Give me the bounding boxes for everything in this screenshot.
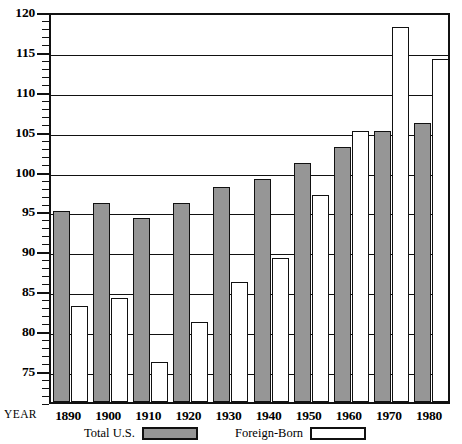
legend-swatch-total-us <box>142 427 198 440</box>
bars-layer <box>51 15 448 402</box>
y-axis-major-tick <box>37 133 49 135</box>
y-axis-minor-tick <box>42 205 49 206</box>
y-axis-minor-tick <box>42 21 49 22</box>
y-axis-minor-tick <box>42 149 49 150</box>
bar-1920-foreign-born <box>191 322 208 402</box>
x-axis-tick-label-1910: 1910 <box>135 408 161 424</box>
bar-1970-foreign-born <box>392 27 409 402</box>
y-axis-minor-tick <box>42 77 49 78</box>
y-axis-tick-label: 100 <box>15 165 35 181</box>
bar-1980-foreign-born <box>432 59 449 402</box>
y-axis-tick-label: 90 <box>22 244 35 260</box>
legend-label-foreign-born: Foreign-Born <box>235 426 303 441</box>
x-axis-tick-label-1930: 1930 <box>216 408 242 424</box>
y-axis-major-tick <box>37 93 49 95</box>
y-axis-minor-tick <box>42 316 49 317</box>
y-axis-tick-label: 95 <box>22 204 35 220</box>
y-axis-minor-tick <box>42 404 49 405</box>
bar-1920-total-us <box>173 203 190 402</box>
y-axis-major-tick <box>37 173 49 175</box>
y-axis-minor-tick <box>42 165 49 166</box>
y-axis-tick-label: 75 <box>22 364 35 380</box>
y-axis-minor-tick <box>42 236 49 237</box>
bar-1900-foreign-born <box>111 298 128 402</box>
bar-1900-total-us <box>93 203 110 402</box>
bar-chart: 7580859095100105110115120 YEAR 189019001… <box>0 0 462 444</box>
bar-1890-foreign-born <box>71 306 88 402</box>
legend-item-foreign-born: Foreign-Born <box>235 426 366 441</box>
y-axis-minor-tick <box>42 284 49 285</box>
y-axis-minor-tick <box>42 324 49 325</box>
y-axis-minor-tick <box>42 228 49 229</box>
bar-1960-foreign-born <box>352 131 369 402</box>
legend-label-total-us: Total U.S. <box>84 426 135 441</box>
y-axis-tick-label: 110 <box>16 85 35 101</box>
y-axis-major-tick <box>37 212 49 214</box>
x-axis-tick-label-1960: 1960 <box>336 408 362 424</box>
x-axis-tick-label-1900: 1900 <box>95 408 121 424</box>
y-axis-minor-tick <box>42 29 49 30</box>
y-axis-major-tick <box>37 53 49 55</box>
y-axis-major-tick <box>37 252 49 254</box>
legend-item-total-us: Total U.S. <box>84 426 198 441</box>
x-axis-tick-label-1950: 1950 <box>296 408 322 424</box>
y-axis-minor-tick <box>42 101 49 102</box>
y-axis-minor-tick <box>42 268 49 269</box>
y-axis-minor-tick <box>42 189 49 190</box>
y-axis-tick-label: 105 <box>15 125 35 141</box>
y-axis-minor-tick <box>42 37 49 38</box>
y-axis-minor-tick <box>42 340 49 341</box>
plot-area <box>49 13 450 404</box>
y-axis-minor-tick <box>42 220 49 221</box>
y-axis-minor-tick <box>42 69 49 70</box>
y-axis-minor-tick <box>42 109 49 110</box>
y-axis-minor-tick <box>42 260 49 261</box>
y-axis-minor-tick <box>42 348 49 349</box>
y-axis-minor-tick <box>42 308 49 309</box>
y-axis-minor-tick <box>42 61 49 62</box>
y-axis-major-tick <box>37 13 49 15</box>
y-axis-tick-label: 85 <box>22 284 35 300</box>
x-axis-tick-label-1980: 1980 <box>416 408 442 424</box>
y-axis-tick-label: 115 <box>16 45 35 61</box>
x-axis-title: YEAR <box>4 408 37 420</box>
x-axis-tick-label-1940: 1940 <box>256 408 282 424</box>
y-axis-minor-tick <box>42 181 49 182</box>
bar-1960-total-us <box>334 147 351 402</box>
bar-1950-foreign-born <box>312 195 329 402</box>
bar-1940-foreign-born <box>272 258 289 402</box>
bar-1910-total-us <box>133 218 150 402</box>
y-axis-minor-tick <box>42 141 49 142</box>
y-axis-minor-tick <box>42 276 49 277</box>
y-axis-minor-tick <box>42 85 49 86</box>
bar-1940-total-us <box>254 179 271 402</box>
y-axis-minor-tick <box>42 244 49 245</box>
y-axis-major-tick <box>37 372 49 374</box>
y-axis-tick-label: 120 <box>15 5 35 21</box>
x-axis-tick-label-1920: 1920 <box>175 408 201 424</box>
y-axis-minor-tick <box>42 388 49 389</box>
legend-swatch-foreign-born <box>310 427 366 440</box>
y-axis-major-tick <box>37 292 49 294</box>
y-axis-tick-label: 80 <box>22 324 35 340</box>
y-axis-minor-tick <box>42 356 49 357</box>
y-axis-minor-tick <box>42 157 49 158</box>
y-axis-minor-tick <box>42 396 49 397</box>
x-axis-tick-label-1890: 1890 <box>55 408 81 424</box>
y-axis-minor-tick <box>42 125 49 126</box>
bar-1970-total-us <box>374 131 391 402</box>
y-axis-major-tick <box>37 332 49 334</box>
y-axis-minor-tick <box>42 300 49 301</box>
chart-legend: Total U.S. Foreign-Born <box>0 426 462 444</box>
x-axis: YEAR 18901900191019201930194019501960197… <box>0 408 462 428</box>
bar-1910-foreign-born <box>151 362 168 402</box>
y-axis: 7580859095100105110115120 <box>0 0 49 444</box>
bar-1930-foreign-born <box>231 282 248 402</box>
y-axis-minor-tick <box>42 117 49 118</box>
bar-1890-total-us <box>53 211 70 403</box>
bar-1980-total-us <box>414 123 431 402</box>
y-axis-minor-tick <box>42 197 49 198</box>
bar-1930-total-us <box>213 187 230 402</box>
x-axis-tick-label-1970: 1970 <box>376 408 402 424</box>
bar-1950-total-us <box>294 163 311 402</box>
